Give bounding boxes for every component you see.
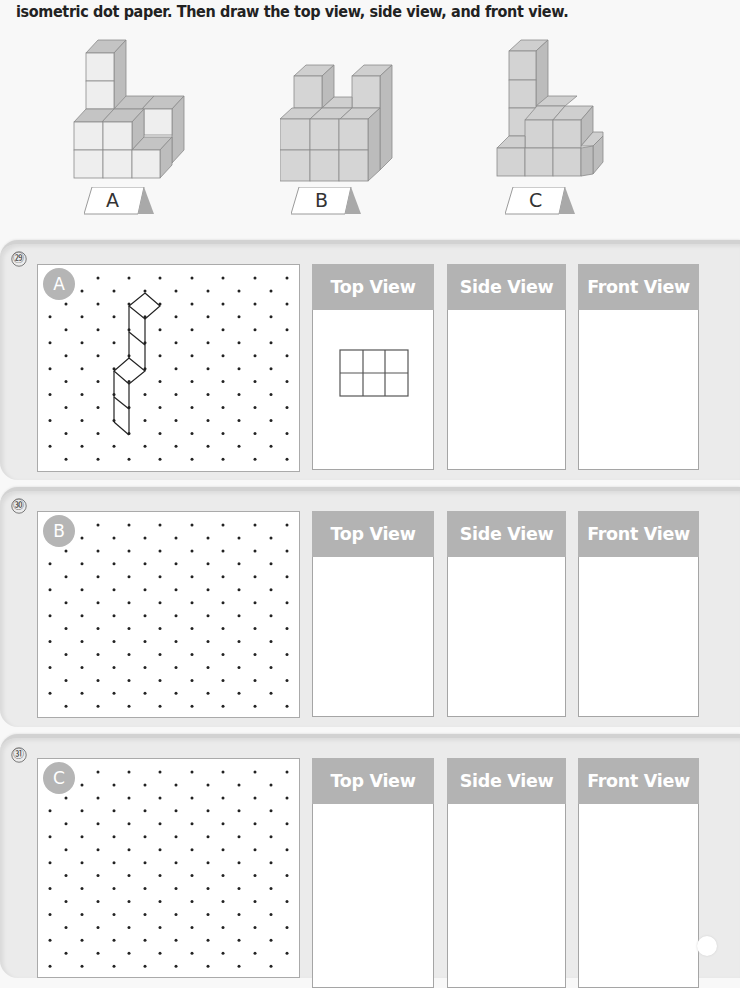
front-view-box[interactable]: Front View bbox=[578, 511, 699, 717]
top-view-drawing-area[interactable] bbox=[313, 310, 433, 469]
figure-label-b: B bbox=[315, 189, 328, 211]
figure-label-a: A bbox=[106, 189, 119, 211]
cube-structure-c-icon bbox=[495, 36, 610, 181]
figure-b bbox=[280, 62, 400, 192]
tent-card-icon bbox=[84, 187, 156, 215]
front-view-header: Front View bbox=[578, 264, 699, 310]
top-view-drawing-area[interactable] bbox=[313, 557, 433, 716]
top-view-box[interactable]: Top View bbox=[312, 264, 434, 470]
front-view-header: Front View bbox=[578, 511, 699, 557]
question-card-29: ㉙ A Top View bbox=[0, 240, 740, 480]
front-view-box[interactable]: Front View bbox=[578, 264, 699, 470]
figure-label-c: C bbox=[529, 189, 542, 211]
top-view-header: Top View bbox=[312, 264, 434, 310]
figure-badge: C bbox=[43, 762, 75, 794]
top-view-box[interactable]: Top View bbox=[312, 758, 434, 988]
drawn-sketch-a bbox=[1, 265, 301, 473]
front-view-drawing-area[interactable] bbox=[579, 557, 698, 716]
top-view-box[interactable]: Top View bbox=[312, 511, 434, 717]
label-tent-c: C bbox=[505, 187, 577, 215]
cube-structure-b-icon bbox=[280, 62, 400, 192]
front-view-box[interactable]: Front View bbox=[578, 758, 699, 988]
side-view-header: Side View bbox=[447, 511, 566, 557]
label-tent-b: B bbox=[291, 187, 363, 215]
side-view-box[interactable]: Side View bbox=[447, 511, 566, 717]
question-card-31: ㉛ C Top View Side View Front View bbox=[0, 734, 740, 978]
figure-c bbox=[495, 36, 610, 181]
dot-grid-icon bbox=[1, 512, 301, 719]
top-view-header: Top View bbox=[312, 511, 434, 557]
front-view-drawing-area[interactable] bbox=[579, 804, 698, 987]
side-view-header: Side View bbox=[447, 264, 566, 310]
front-view-drawing-area[interactable] bbox=[579, 310, 698, 469]
figure-badge: A bbox=[43, 268, 75, 300]
top-view-header: Top View bbox=[312, 758, 434, 804]
side-view-drawing-area[interactable] bbox=[448, 310, 565, 469]
cube-structure-a-icon bbox=[60, 30, 200, 190]
side-view-header: Side View bbox=[447, 758, 566, 804]
top-view-drawing-area[interactable] bbox=[313, 804, 433, 987]
side-view-drawing-area[interactable] bbox=[448, 557, 565, 716]
side-view-drawing-area[interactable] bbox=[448, 804, 565, 987]
isometric-dot-paper[interactable]: C bbox=[37, 758, 300, 978]
question-card-30: ㉚ B Top View Side View Front View bbox=[0, 487, 740, 727]
isometric-dot-paper[interactable]: B bbox=[37, 511, 300, 718]
dot-grid-icon bbox=[1, 759, 301, 979]
label-tent-a: A bbox=[84, 187, 156, 215]
figure-a bbox=[60, 30, 200, 190]
side-view-box[interactable]: Side View bbox=[447, 758, 566, 988]
figure-badge: B bbox=[43, 515, 75, 547]
side-view-box[interactable]: Side View bbox=[447, 264, 566, 470]
instruction-text: isometric dot paper. Then draw the top v… bbox=[16, 3, 568, 21]
isometric-dot-paper[interactable]: A bbox=[37, 264, 300, 472]
front-view-header: Front View bbox=[578, 758, 699, 804]
top-view-grid-sketch bbox=[313, 310, 435, 470]
page-corner-marker bbox=[697, 936, 717, 956]
